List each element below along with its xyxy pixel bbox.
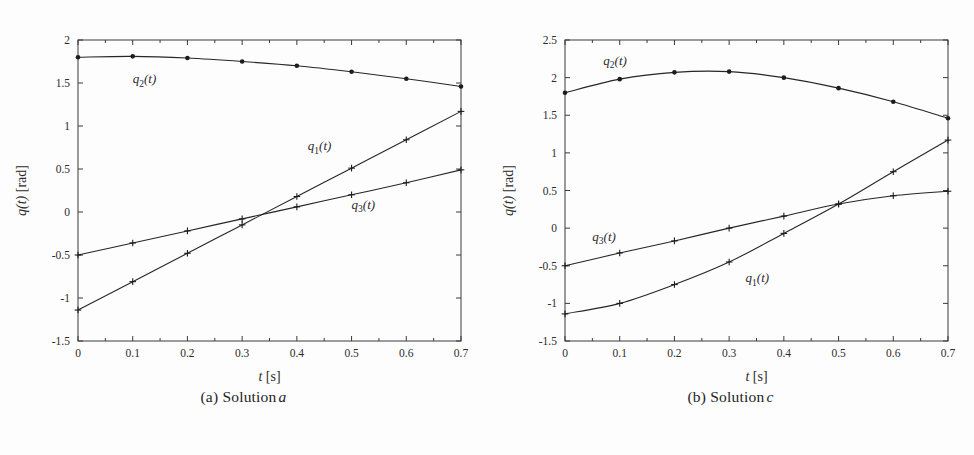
- b-marker-dot: [891, 99, 896, 104]
- a-ytick-label: 1.5: [56, 77, 71, 89]
- a-series-line-q1t: [78, 111, 461, 310]
- b-ytick-label: -1: [547, 297, 557, 309]
- plot-b: 00.10.20.30.40.50.60.7-1.5-1-0.500.511.5…: [487, 0, 974, 390]
- a-xaxis-title: t [s]: [258, 369, 280, 384]
- a-xtick-label: 0.1: [126, 347, 141, 359]
- b-yaxis-title: q(t) [rad]: [501, 165, 517, 216]
- b-curve-label-q3t: q3(t): [592, 229, 616, 247]
- b-xtick-label: 0.2: [667, 347, 682, 359]
- b-marker-dot: [727, 69, 732, 74]
- b-plot-frame: [565, 40, 948, 341]
- a-curve-label-q3t: q3(t): [352, 197, 376, 215]
- a-ytick-label: 0.5: [56, 163, 71, 175]
- figure-panel-b: 00.10.20.30.40.50.60.7-1.5-1-0.500.511.5…: [487, 0, 974, 455]
- a-xtick-label: 0.6: [399, 347, 414, 359]
- b-xtick-label: 0.7: [941, 347, 956, 359]
- a-marker-dot: [349, 70, 354, 75]
- a-ytick-label: 0: [64, 206, 70, 218]
- b-series-line-q1t: [565, 140, 948, 314]
- b-xtick-label: 0.1: [613, 347, 628, 359]
- b-ytick-label: 2.5: [543, 34, 558, 46]
- a-marker-dot: [295, 64, 300, 69]
- figure-root: 00.10.20.30.40.50.60.7-1.5-1-0.500.511.5…: [0, 0, 974, 455]
- a-xtick-label: 0.2: [180, 347, 195, 359]
- caption-a-italic: a: [277, 388, 287, 405]
- b-xtick-label: 0.6: [886, 347, 901, 359]
- caption-b-italic: c: [764, 388, 773, 405]
- b-xtick-label: 0.3: [722, 347, 737, 359]
- b-marker-dot: [563, 90, 568, 95]
- b-marker-dot: [782, 75, 787, 80]
- b-marker-dot: [836, 86, 841, 91]
- figure-panel-a: 00.10.20.30.40.50.60.7-1.5-1-0.500.511.5…: [0, 0, 487, 455]
- a-ytick-label: -1: [60, 292, 70, 304]
- a-ytick-label: -1.5: [52, 335, 70, 347]
- a-marker-dot: [76, 55, 81, 60]
- caption-b: (b) Solutionc: [487, 388, 974, 406]
- b-ytick-label: -1.5: [539, 335, 557, 347]
- a-ytick-label: 1: [64, 120, 70, 132]
- a-xtick-label: 0: [75, 347, 81, 359]
- b-ytick-label: 2: [551, 72, 557, 84]
- a-ytick-label: -0.5: [52, 249, 70, 261]
- caption-a-text: (a) Solution: [201, 388, 277, 405]
- b-ytick-label: 0.5: [543, 185, 558, 197]
- a-yaxis-title: q(t) [rad]: [14, 165, 30, 216]
- b-series-line-q3t: [565, 191, 948, 266]
- plot-a: 00.10.20.30.40.50.60.7-1.5-1-0.500.511.5…: [0, 0, 487, 390]
- b-marker-dot: [946, 116, 951, 121]
- a-xtick-label: 0.7: [454, 347, 469, 359]
- a-xtick-label: 0.4: [290, 347, 305, 359]
- a-curve-label-q1t: q1(t): [308, 138, 332, 156]
- b-series-line-q2t: [565, 71, 948, 118]
- b-curve-label-q2t: q2(t): [603, 53, 627, 71]
- b-marker-dot: [617, 77, 622, 82]
- a-marker-dot: [459, 84, 464, 89]
- b-xaxis-title: t [s]: [745, 369, 767, 384]
- caption-a: (a) Solutiona: [0, 388, 487, 406]
- a-xtick-label: 0.3: [235, 347, 250, 359]
- a-marker-dot: [130, 54, 135, 59]
- caption-b-text: (b) Solution: [688, 388, 765, 405]
- a-marker-dot: [404, 76, 409, 81]
- b-curve-label-q1t: q1(t): [746, 270, 770, 288]
- b-xtick-label: 0: [562, 347, 568, 359]
- b-ytick-label: 0: [551, 222, 557, 234]
- a-marker-dot: [240, 59, 245, 64]
- b-ytick-label: 1: [551, 147, 557, 159]
- b-ytick-label: -0.5: [539, 260, 557, 272]
- a-xtick-label: 0.5: [344, 347, 359, 359]
- b-xtick-label: 0.5: [831, 347, 846, 359]
- a-marker-dot: [185, 56, 190, 61]
- b-marker-dot: [672, 70, 677, 75]
- b-ytick-label: 1.5: [543, 109, 558, 121]
- b-xtick-label: 0.4: [777, 347, 792, 359]
- a-ytick-label: 2: [64, 34, 70, 46]
- a-curve-label-q2t: q2(t): [133, 71, 157, 89]
